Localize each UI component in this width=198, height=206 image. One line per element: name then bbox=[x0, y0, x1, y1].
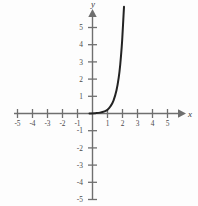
x-tick-label-2: 2 bbox=[121, 119, 125, 128]
x-tick-label-4: 4 bbox=[151, 119, 155, 128]
y-tick-label--2: -2 bbox=[77, 144, 83, 153]
y-tick-label-3: 3 bbox=[79, 58, 83, 67]
exponential-growth-curve bbox=[90, 7, 125, 114]
y-tick-label--3: -3 bbox=[77, 161, 83, 170]
x-tick-label-5: 5 bbox=[166, 119, 170, 128]
x-tick-label--5: -5 bbox=[14, 119, 20, 128]
y-tick-label-1: 1 bbox=[79, 92, 83, 101]
x-tick-label-1: 1 bbox=[106, 119, 110, 128]
x-axis-label: x bbox=[187, 109, 192, 119]
y-tick-label--4: -4 bbox=[77, 178, 83, 187]
y-tick-label--5: -5 bbox=[77, 195, 83, 204]
y-axis-label: y bbox=[90, 0, 95, 9]
y-tick-label-2: 2 bbox=[79, 75, 83, 84]
y-tick-label-4: 4 bbox=[79, 40, 83, 49]
x-tick-label-3: 3 bbox=[136, 119, 140, 128]
plot-svg: -5 -4 -3 -2 -1 1 2 3 4 5 5 4 3 2 1 -1 -2… bbox=[0, 0, 198, 206]
coordinate-plane-figure: -5 -4 -3 -2 -1 1 2 3 4 5 5 4 3 2 1 -1 -2… bbox=[0, 0, 198, 206]
y-tick-label-5: 5 bbox=[79, 23, 83, 32]
x-axis-arrow-icon bbox=[178, 109, 186, 117]
y-tick-label--1: -1 bbox=[77, 126, 83, 135]
x-tick-label--3: -3 bbox=[44, 119, 50, 128]
y-axis-arrow-icon bbox=[88, 9, 96, 17]
x-tick-label--2: -2 bbox=[59, 119, 65, 128]
x-tick-label--4: -4 bbox=[29, 119, 35, 128]
